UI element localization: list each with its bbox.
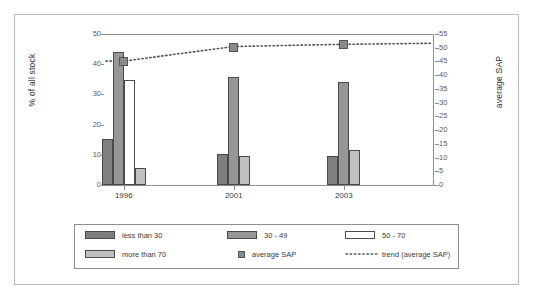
legend-item-average-sap[interactable]: average SAP [227, 247, 296, 261]
y-axis-right-tick-label: 25 [439, 111, 459, 120]
y-axis-left-tick-label: 0 [79, 180, 101, 189]
plot-area [104, 34, 434, 185]
y-axis-right-tick-mark [435, 89, 439, 90]
y-axis-right-tick-mark [435, 144, 439, 145]
legend-swatch-icon [85, 250, 115, 258]
legend-item-label: more than 70 [122, 250, 166, 259]
x-axis-tick-mark [124, 186, 125, 190]
bar-more-than-70-2003 [349, 150, 360, 185]
chart-legend: less than 3030 - 4950 - 70more than 70av… [74, 224, 459, 269]
y-axis-right-tick-label: 30 [439, 98, 459, 107]
y-axis-left-tick-label: 10 [79, 150, 101, 159]
legend-square-marker-icon [238, 251, 245, 258]
y-axis-right-tick-mark [435, 34, 439, 35]
trend-line-path [106, 43, 432, 61]
bar-less-than-30-1996 [102, 139, 113, 185]
average-sap-marker-2003 [339, 40, 348, 49]
legend-item-less-than-30[interactable]: less than 30 [85, 228, 162, 242]
trend-line-svg [104, 35, 434, 186]
chart-figure: % of all stock average SAP 01020304050 0… [14, 14, 519, 285]
y-axis-right-tick-label: 50 [439, 43, 459, 52]
x-axis-category-label-2001: 2001 [204, 191, 264, 200]
y-axis-right-tick-mark [435, 48, 439, 49]
legend-swatch-icon [345, 231, 375, 239]
x-axis-tick-mark [234, 186, 235, 190]
legend-item-trend-average-sap[interactable]: trend (average SAP) [345, 247, 450, 261]
y-axis-right-title: average SAP [494, 37, 504, 127]
x-axis-tick-mark [344, 186, 345, 190]
legend-swatch-icon [85, 231, 115, 239]
y-axis-right-tick-mark [435, 103, 439, 104]
y-axis-right-tick-mark [435, 75, 439, 76]
y-axis-right-tick-label: 20 [439, 125, 459, 134]
average-sap-marker-1996 [119, 57, 128, 66]
legend-item-more-than-70[interactable]: more than 70 [85, 247, 166, 261]
legend-item-label: less than 30 [122, 231, 162, 240]
y-axis-right-tick-label: 55 [439, 29, 459, 38]
y-axis-left-ticks: 01020304050 [77, 34, 101, 186]
bar-less-than-30-2001 [217, 154, 228, 185]
y-axis-right-tick-mark [435, 116, 439, 117]
legend-item-50-70[interactable]: 50 - 70 [345, 228, 405, 242]
y-axis-right-tick-mark [435, 130, 439, 131]
y-axis-right-tick-label: 15 [439, 139, 459, 148]
y-axis-left-tick-label: 20 [79, 120, 101, 129]
x-axis-category-label-2003: 2003 [314, 191, 374, 200]
y-axis-right-tick-label: 0 [439, 180, 459, 189]
bar-more-than-70-2001 [239, 156, 250, 185]
legend-item-label: 30 - 49 [264, 231, 287, 240]
y-axis-left-tick-label: 40 [79, 59, 101, 68]
legend-dotted-line-icon [345, 250, 379, 258]
y-axis-right-tick-label: 40 [439, 70, 459, 79]
average-sap-marker-2001 [229, 43, 238, 52]
bar-50-70-1996 [124, 80, 135, 185]
y-axis-right-ticks: 0510152025303540455055 [439, 34, 461, 186]
y-axis-left-title: % of all stock [27, 35, 37, 125]
y-axis-right-tick-mark [435, 61, 439, 62]
y-axis-right-tick-mark [435, 171, 439, 172]
y-axis-right-tick-label: 35 [439, 84, 459, 93]
legend-item-label: trend (average SAP) [382, 250, 450, 259]
y-axis-left-tick-label: 50 [79, 29, 101, 38]
legend-item-label: 50 - 70 [382, 231, 405, 240]
y-axis-right-tick-mark [435, 185, 439, 186]
bar-30-49-2003 [338, 82, 349, 185]
bar-more-than-70-1996 [135, 168, 146, 185]
x-axis-category-label-1996: 1996 [94, 191, 154, 200]
y-axis-right-tick-label: 45 [439, 56, 459, 65]
y-axis-right-tick-label: 5 [439, 166, 459, 175]
legend-item-label: average SAP [252, 250, 296, 259]
bar-30-49-1996 [113, 52, 124, 185]
y-axis-right-tick-mark [435, 158, 439, 159]
y-axis-left-tick-label: 30 [79, 89, 101, 98]
bar-30-49-2001 [228, 77, 239, 185]
bar-less-than-30-2003 [327, 156, 338, 185]
legend-item-30-49[interactable]: 30 - 49 [227, 228, 287, 242]
legend-swatch-icon [227, 231, 257, 239]
y-axis-right-tick-label: 10 [439, 153, 459, 162]
